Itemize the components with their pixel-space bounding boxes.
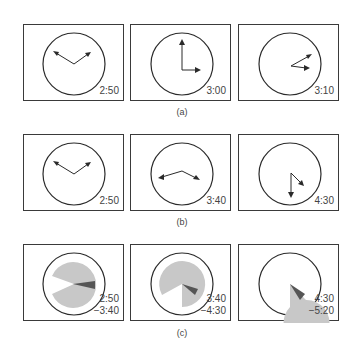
clock-panel-c1: 2:50 −3:40 <box>23 244 124 321</box>
time-label: 4:30 <box>315 195 334 207</box>
time-label: 3:40 <box>207 195 226 207</box>
caption-c: (c) <box>162 328 202 338</box>
clock-panel-c3: 4:30 −5:20 <box>238 244 339 321</box>
caption-a: (a) <box>162 107 202 117</box>
time-label: 4:30 −5:20 <box>309 293 334 317</box>
time-label: 2:50 −3:40 <box>94 293 119 317</box>
end-time: −5:20 <box>309 305 334 317</box>
time-label: 3:00 <box>207 85 226 97</box>
clock-panel-c2: 3:40 −4:30 <box>130 244 231 321</box>
time-label: 2:50 <box>100 195 119 207</box>
end-time: −3:40 <box>94 305 119 317</box>
clock-panel-b3: 4:30 <box>238 134 339 211</box>
clock-panel-b1: 2:50 <box>23 134 124 211</box>
start-time: 3:40 <box>201 293 226 305</box>
time-label: 3:40 −4:30 <box>201 293 226 317</box>
end-time: −4:30 <box>201 305 226 317</box>
start-time: 4:30 <box>309 293 334 305</box>
time-label: 2:50 <box>100 85 119 97</box>
clock-panel-a2: 3:00 <box>130 24 231 101</box>
clock-panel-b2: 3:40 <box>130 134 231 211</box>
clock-panel-a1: 2:50 <box>23 24 124 101</box>
clock-panel-a3: 3:10 <box>238 24 339 101</box>
caption-b: (b) <box>162 217 202 227</box>
start-time: 2:50 <box>94 293 119 305</box>
time-label: 3:10 <box>315 85 334 97</box>
